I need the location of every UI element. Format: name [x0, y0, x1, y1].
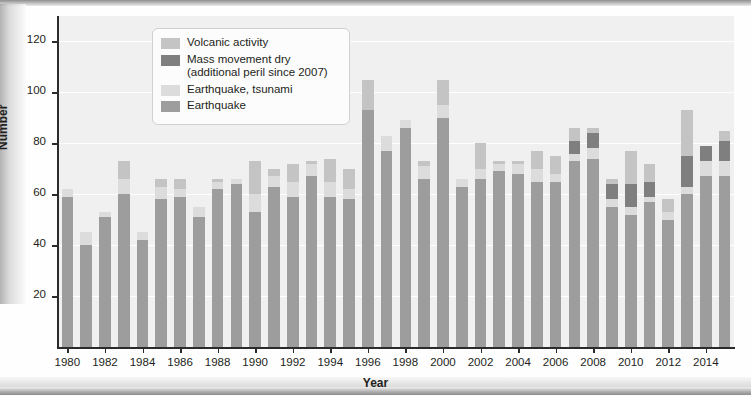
x-tick-2000 [443, 348, 445, 353]
legend-text-wrap: Volcanic activity [187, 36, 268, 50]
x-tick-label-2002: 2002 [461, 356, 501, 368]
y-tick-label-40: 40 [0, 237, 46, 249]
bar-segment [625, 215, 637, 347]
x-tick-1980 [67, 348, 69, 353]
legend-swatch-icon [161, 55, 180, 66]
y-axis-line [57, 16, 59, 348]
y-tick-60 [52, 194, 57, 196]
legend-label: Earthquake, tsunami [187, 83, 292, 97]
bar-segment [606, 207, 618, 347]
bar-segment [644, 197, 656, 202]
bar-segment [662, 212, 674, 220]
bar-1993 [306, 161, 318, 347]
x-axis-label: Year [0, 376, 751, 390]
bar-segment [400, 128, 412, 347]
bar-segment [550, 182, 562, 348]
bar-segment [155, 187, 167, 200]
bar-segment [719, 176, 731, 347]
x-tick-2012 [668, 348, 670, 353]
legend-text-wrap: Earthquake, tsunami [187, 83, 292, 97]
bar-segment [381, 151, 393, 347]
bar-segment [719, 131, 731, 141]
x-tick-label-1998: 1998 [385, 356, 425, 368]
x-tick-label-2006: 2006 [536, 356, 576, 368]
legend-sublabel: (additional peril since 2007) [187, 66, 328, 80]
y-tick-40 [52, 245, 57, 247]
legend-swatch-icon [161, 85, 180, 96]
bar-segment [569, 161, 581, 347]
bar-2003 [493, 161, 505, 347]
x-tick-2008 [593, 348, 595, 353]
bar-1984 [137, 232, 149, 347]
legend-item: Volcanic activity [161, 36, 340, 50]
chart-legend: Volcanic activityMass movement dry(addit… [152, 28, 350, 125]
bar-1998 [400, 120, 412, 347]
bar-segment [324, 159, 336, 182]
bar-segment [118, 179, 130, 194]
x-tick-label-1982: 1982 [85, 356, 125, 368]
bar-segment [174, 197, 186, 347]
bar-2011 [644, 164, 656, 347]
bar-segment [681, 156, 693, 187]
bar-segment [606, 184, 618, 199]
bar-segment [550, 174, 562, 182]
y-axis-label: Number [0, 105, 10, 150]
bar-segment [700, 161, 712, 176]
bar-segment [456, 179, 468, 187]
bar-segment [700, 146, 712, 161]
bar-1996 [362, 80, 374, 347]
bar-1985 [155, 179, 167, 347]
scan-artifact-left [0, 4, 26, 304]
bar-2005 [531, 151, 543, 347]
bar-segment [212, 189, 224, 347]
y-tick-100 [52, 92, 57, 94]
x-tick-1988 [218, 348, 220, 353]
bar-segment [249, 194, 261, 212]
bar-segment [212, 179, 224, 182]
bar-segment [681, 187, 693, 195]
bar-1990 [249, 161, 261, 347]
bar-segment [475, 143, 487, 168]
x-tick-1984 [143, 348, 145, 353]
bar-2012 [662, 199, 674, 347]
bar-segment [80, 232, 92, 245]
bar-segment [493, 164, 505, 172]
bar-segment [606, 179, 618, 184]
bar-segment [418, 179, 430, 347]
bar-segment [99, 217, 111, 347]
legend-swatch-icon [161, 101, 180, 112]
y-tick-label-120: 120 [0, 33, 46, 45]
bar-1989 [231, 179, 243, 347]
bar-2004 [512, 161, 524, 347]
bar-segment [137, 240, 149, 347]
bar-segment [249, 161, 261, 194]
x-tick-label-2008: 2008 [573, 356, 613, 368]
bar-2006 [550, 156, 562, 347]
bar-1982 [99, 212, 111, 347]
bar-1997 [381, 136, 393, 347]
y-tick-label-60: 60 [0, 186, 46, 198]
legend-label: Volcanic activity [187, 36, 268, 50]
bar-segment [531, 151, 543, 169]
x-tick-2002 [481, 348, 483, 353]
bar-segment [268, 169, 280, 177]
x-tick-label-1996: 1996 [348, 356, 388, 368]
bar-segment [662, 199, 674, 212]
bar-segment [343, 189, 355, 199]
x-tick-label-1990: 1990 [235, 356, 275, 368]
bar-segment [324, 182, 336, 197]
bar-1980 [62, 189, 74, 347]
bar-2007 [569, 128, 581, 347]
x-tick-label-1988: 1988 [198, 356, 238, 368]
scan-artifact-top [0, 0, 751, 6]
bar-segment [587, 148, 599, 158]
x-tick-1992 [293, 348, 295, 353]
bar-segment [137, 232, 149, 240]
bar-2002 [475, 143, 487, 347]
x-tick-1986 [180, 348, 182, 353]
bar-segment [381, 136, 393, 151]
legend-item: Earthquake, tsunami [161, 83, 340, 97]
x-tick-label-2000: 2000 [423, 356, 463, 368]
bar-1992 [287, 164, 299, 347]
bar-1999 [418, 161, 430, 347]
